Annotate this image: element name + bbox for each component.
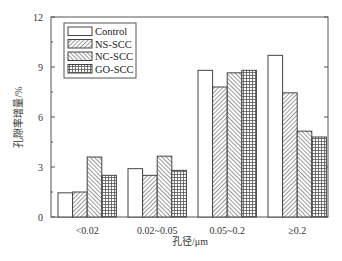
x-tick-label: 0.05~0.2 (209, 225, 244, 236)
bar-control (268, 55, 283, 217)
x-tick-label: <0.02 (76, 225, 99, 236)
bar-go-scc (242, 70, 257, 217)
legend-swatch (68, 27, 92, 36)
bar-go-scc (312, 137, 327, 217)
bar-go-scc (102, 175, 117, 217)
legend-label: Control (95, 26, 127, 37)
bar-chart: 036912 <0.020.02~0.050.05~0.2≥0.2 孔径/μm … (0, 0, 342, 261)
x-tick-label: ≥0.2 (288, 225, 306, 236)
bar-ns-scc (143, 175, 158, 217)
bar-nc-scc (157, 156, 172, 217)
x-axis-title: 孔径/μm (172, 235, 208, 247)
bar-ns-scc (283, 93, 298, 217)
bar-ns-scc (73, 192, 88, 217)
bars (58, 55, 326, 217)
bar-nc-scc (227, 73, 242, 217)
y-tick-label: 6 (38, 112, 43, 123)
y-tick-label: 9 (38, 62, 43, 73)
legend-label: GO-SCC (95, 64, 134, 75)
bar-go-scc (172, 170, 187, 217)
y-tick-label: 3 (38, 162, 43, 173)
legend-swatch (68, 40, 92, 49)
legend: ControlNS-SCCNC-SCCGO-SCC (64, 23, 136, 78)
bar-ns-scc (213, 87, 228, 217)
bar-control (128, 169, 143, 217)
y-axis-title: 孔隙率增量/% (12, 86, 24, 147)
legend-swatch (68, 65, 92, 74)
legend-label: NS-SCC (95, 39, 132, 50)
x-axis: <0.020.02~0.050.05~0.2≥0.2 (76, 225, 307, 236)
bar-control (198, 70, 213, 217)
y-tick-label: 0 (38, 212, 43, 223)
y-tick-label: 12 (33, 12, 43, 23)
legend-label: NC-SCC (95, 51, 133, 62)
bar-nc-scc (87, 157, 102, 217)
bar-control (58, 193, 73, 217)
legend-swatch (68, 52, 92, 61)
x-tick-label: 0.02~0.05 (137, 225, 177, 236)
bar-nc-scc (297, 131, 312, 217)
